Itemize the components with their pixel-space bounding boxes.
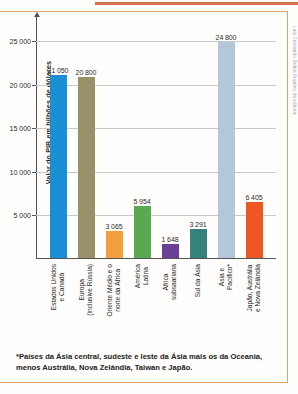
- y-tick-label: 5 000: [13, 212, 31, 219]
- bar[interactable]: [162, 244, 179, 258]
- bar-column: 3 065: [100, 24, 128, 258]
- bar[interactable]: [78, 77, 95, 258]
- x-category-label: Ásia ePacífico*: [218, 264, 233, 290]
- bar-column: 6 405: [240, 24, 268, 258]
- x-category-column: Ásia ePacífico*: [212, 264, 240, 340]
- x-category-column: Europa(inclusive Rússia): [72, 264, 100, 340]
- bar-column: 3 291: [184, 24, 212, 258]
- x-category-label: Áfricasubsaariana: [162, 264, 177, 300]
- bar-chart: Valor do PIB em bilhões de dólares 5 000…: [0, 14, 280, 344]
- bar[interactable]: [134, 206, 151, 258]
- bar-value-label: 5 954: [133, 198, 150, 205]
- top-rule-divider: [95, 2, 298, 5]
- y-tick-label: 10 000: [10, 168, 31, 175]
- bar[interactable]: [50, 75, 67, 258]
- x-category-label: Oriente Médio e onorte da África: [106, 264, 121, 316]
- y-tick-label: 15 000: [10, 125, 31, 132]
- y-tick-label: 25 000: [10, 38, 31, 45]
- x-category-column: Áfricasubsaariana: [156, 264, 184, 340]
- x-category-label: Sul da Ásia: [194, 264, 202, 297]
- bar-value-label: 21 050: [48, 67, 69, 74]
- bar-column: 20 800: [72, 24, 100, 258]
- x-category-label: Japão, Austráliae Nova Zelândia: [246, 264, 261, 312]
- bar-value-label: 1 648: [161, 236, 178, 243]
- bar-value-label: 3 291: [189, 221, 206, 228]
- x-category-column: Japão, Austráliae Nova Zelândia: [240, 264, 268, 340]
- bar[interactable]: [218, 42, 235, 258]
- bar-value-label: 24 800: [216, 34, 237, 41]
- bar[interactable]: [106, 231, 123, 258]
- x-category-label: Estados Unidose Canadá: [50, 264, 65, 310]
- x-category-column: AméricaLatina: [128, 264, 156, 340]
- x-axis-categories: Estados Unidose CanadáEuropa(inclusive R…: [36, 264, 272, 340]
- bar-column: 21 050: [44, 24, 72, 258]
- bar-column: 24 800: [212, 24, 240, 258]
- bar-value-label: 6 405: [245, 194, 262, 201]
- image-credit: Luiz Fernando Rubio/Arquivo da editora: [292, 26, 297, 115]
- bar[interactable]: [246, 202, 263, 258]
- bar-series: 21 05020 8003 0655 9541 6483 29124 8006 …: [36, 24, 272, 258]
- y-tick-label: 20 000: [10, 81, 31, 88]
- x-category-column: Oriente Médio e onorte da África: [100, 264, 128, 340]
- bar-column: 5 954: [128, 24, 156, 258]
- x-category-label: AméricaLatina: [134, 264, 149, 288]
- x-category-label: Europa(inclusive Rússia): [78, 264, 93, 316]
- x-category-column: Sul da Ásia: [184, 264, 212, 340]
- plot-area: 5 00010 00015 00020 00025 000 21 05020 8…: [36, 24, 272, 259]
- scanned-page: Luiz Fernando Rubio/Arquivo da editora V…: [0, 0, 298, 394]
- chart-footnote: *Países da Ásia central, sudeste e leste…: [16, 352, 274, 373]
- x-category-column: Estados Unidose Canadá: [44, 264, 72, 340]
- bar-value-label: 20 800: [76, 69, 97, 76]
- bar-value-label: 3 065: [105, 223, 122, 230]
- bar-column: 1 648: [156, 24, 184, 258]
- bar[interactable]: [190, 229, 207, 258]
